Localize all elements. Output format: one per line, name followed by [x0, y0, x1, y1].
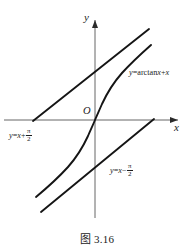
- arctan-label-x2: x: [166, 69, 170, 77]
- curve-label-lower-asymptote: y=x−π2: [110, 163, 133, 179]
- plot-canvas: [0, 0, 194, 252]
- lower-label-denominator: 2: [127, 171, 133, 178]
- y-axis-label: y: [84, 12, 89, 23]
- curve-label-arctan-plus-x: y=arctan x+x: [129, 69, 169, 77]
- curve-lower-asymptote: [41, 119, 154, 212]
- origin-label: O: [83, 106, 91, 117]
- arctan-label-eq: =arctan: [133, 69, 158, 77]
- y-axis-arrowhead: [92, 20, 98, 28]
- lower-label-fraction: π2: [127, 163, 133, 179]
- lower-label-op: −: [122, 167, 127, 175]
- curve-label-upper-asymptote: y=x+π2: [9, 128, 32, 144]
- upper-label-fraction: π2: [26, 128, 32, 144]
- upper-label-denominator: 2: [26, 136, 32, 143]
- figure-caption: 图 3.16: [0, 230, 194, 246]
- figure-container: y x O y=arctan x+x y=x+π2 y=x−π2 图 3.16: [0, 0, 194, 252]
- x-axis-label: x: [174, 122, 179, 133]
- upper-label-op: +: [21, 132, 26, 140]
